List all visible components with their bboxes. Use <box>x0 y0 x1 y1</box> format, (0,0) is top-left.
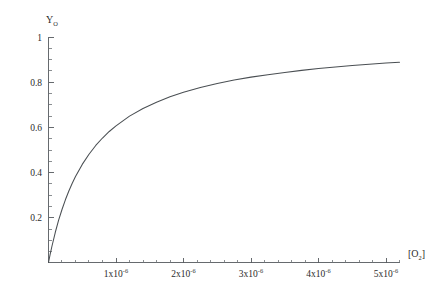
x-tick-label: 1x10-6 <box>104 267 128 279</box>
x-tick-label: 5x10-6 <box>374 267 398 279</box>
x-tick-label: 2x10-6 <box>171 267 195 279</box>
oxygen-binding-curve-plot: 1 0.8 0.6 0.4 0.2 1x10-6 2x10-6 3x10-6 4… <box>0 0 438 297</box>
x-tick-mantissa: 5x10 <box>374 269 393 279</box>
svg-text:5x10-6: 5x10-6 <box>374 267 398 279</box>
x-axis-title-base: [O <box>408 248 419 259</box>
x-tick-mantissa: 3x10 <box>239 269 258 279</box>
y-axis-minor-ticks <box>49 48 52 251</box>
y-tick-label: 0.8 <box>30 78 42 88</box>
svg-text:1x10-6: 1x10-6 <box>104 267 128 279</box>
x-tick-exponent: -6 <box>258 267 263 274</box>
y-axis-title-base: Y <box>46 14 53 25</box>
x-tick-mantissa: 4x10 <box>306 269 325 279</box>
x-tick-exponent: -6 <box>325 267 330 274</box>
y-axis-title: YO <box>46 14 58 27</box>
x-tick-mantissa: 2x10 <box>171 269 190 279</box>
x-tick-mantissa: 1x10 <box>104 269 123 279</box>
svg-text:4x10-6: 4x10-6 <box>306 267 330 279</box>
x-axis-title: [O2] <box>408 248 425 261</box>
y-tick-label: 0.4 <box>30 168 42 178</box>
y-axis-major-ticks <box>49 37 55 218</box>
y-tick-label: 1 <box>37 33 42 43</box>
y-tick-label: 0.2 <box>30 213 42 223</box>
chart-figure: 1 0.8 0.6 0.4 0.2 1x10-6 2x10-6 3x10-6 4… <box>0 0 438 297</box>
svg-text:2x10-6: 2x10-6 <box>171 267 195 279</box>
x-tick-label: 4x10-6 <box>306 267 330 279</box>
y-axis-title-subscript: O <box>53 20 58 27</box>
x-tick-exponent: -6 <box>123 267 128 274</box>
data-series-line <box>49 62 400 262</box>
x-tick-exponent: -6 <box>393 267 398 274</box>
x-axis-title-close: ] <box>422 248 425 259</box>
x-tick-label: 3x10-6 <box>239 267 263 279</box>
x-tick-exponent: -6 <box>190 267 195 274</box>
svg-text:3x10-6: 3x10-6 <box>239 267 263 279</box>
y-tick-label: 0.6 <box>30 123 42 133</box>
